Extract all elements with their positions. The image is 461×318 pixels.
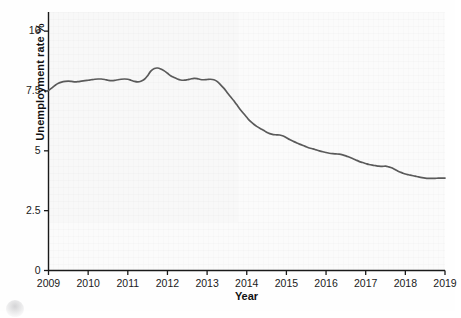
x-tick-label: 2013 xyxy=(185,277,229,289)
x-tick-label: 2017 xyxy=(344,277,388,289)
x-tick-label: 2019 xyxy=(423,277,461,289)
unemployment-rate-line xyxy=(49,68,446,178)
x-axis-title: Year xyxy=(48,290,445,302)
page-artifact-circle-icon xyxy=(6,300,24,318)
x-tick-label: 2011 xyxy=(106,277,150,289)
x-tick-label: 2014 xyxy=(225,277,269,289)
y-tick-label: 2.5 xyxy=(0,204,41,216)
y-axis-title: Unemployment rate % xyxy=(34,0,46,172)
y-tick-label: 0 xyxy=(0,264,41,276)
x-tick-label: 2010 xyxy=(66,277,110,289)
x-tick-label: 2016 xyxy=(304,277,348,289)
x-tick-label: 2009 xyxy=(27,277,71,289)
x-tick-label: 2015 xyxy=(264,277,308,289)
x-tick-label: 2018 xyxy=(383,277,427,289)
x-tick-label: 2012 xyxy=(145,277,189,289)
